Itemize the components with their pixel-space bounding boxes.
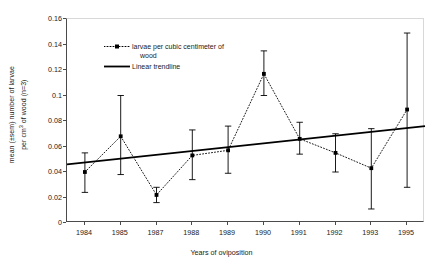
- legend-label-larvae-line2: wood: [140, 51, 224, 60]
- y-tick-label: 0: [34, 218, 62, 227]
- y-tick-label: 0.02: [34, 192, 62, 201]
- data-point-marker: [83, 170, 87, 174]
- x-tick-label: 1984: [76, 228, 92, 237]
- y-axis-title-line2-pre: per cm: [20, 128, 27, 150]
- data-point-marker: [334, 151, 338, 155]
- legend-label-trendline-line1: Linear trendline: [132, 63, 180, 70]
- x-tick-mark: [370, 222, 371, 225]
- x-tick-mark: [335, 222, 336, 225]
- data-point-markers: [83, 72, 409, 197]
- y-axis-title: mean (±sem) number of larvae per cm3 of …: [0, 0, 36, 230]
- legend-item-larvae: larvae per cubic centimeter of wood: [104, 42, 294, 60]
- y-axis-title-line2-post: of wood (n=3): [20, 80, 27, 126]
- data-point-marker: [405, 108, 409, 112]
- x-tick-label: 1992: [327, 228, 343, 237]
- x-tick-label: 1985: [112, 228, 128, 237]
- x-tick-label: 1988: [183, 228, 199, 237]
- x-tick-label: 1993: [362, 228, 378, 237]
- x-tick-mark: [299, 222, 300, 225]
- data-point-marker: [298, 137, 302, 141]
- y-tick-label: 0.04: [34, 167, 62, 176]
- x-tick-mark: [156, 222, 157, 225]
- x-tick-label: 1990: [255, 228, 271, 237]
- x-axis-title: Years of oviposition: [0, 248, 443, 257]
- x-tick-label: 1989: [219, 228, 235, 237]
- x-tick-label: 1987: [148, 228, 164, 237]
- y-axis-title-exponent: 3: [18, 126, 24, 129]
- x-tick-label: 1991: [291, 228, 307, 237]
- data-series-dotted-line: [85, 74, 407, 195]
- legend-item-trendline: Linear trendline: [104, 62, 294, 71]
- data-point-marker: [226, 148, 230, 152]
- data-point-marker: [119, 134, 123, 138]
- legend-label-larvae-line1: larvae per cubic centimeter of: [132, 43, 224, 50]
- x-tick-mark: [263, 222, 264, 225]
- x-tick-mark: [191, 222, 192, 225]
- data-point-marker: [190, 154, 194, 158]
- y-tick-label: 0.16: [34, 14, 62, 23]
- x-tick-mark: [84, 222, 85, 225]
- data-point-marker: [369, 166, 373, 170]
- y-tick-label: 0.08: [34, 116, 62, 125]
- y-tick-label: 0.06: [34, 141, 62, 150]
- solid-line-key-icon: [104, 62, 130, 71]
- dotted-series-path: [85, 74, 407, 195]
- x-tick-mark: [227, 222, 228, 225]
- chart-figure: mean (±sem) number of larvae per cm3 of …: [0, 0, 443, 269]
- y-tick-label: 0.14: [34, 39, 62, 48]
- legend-label-larvae: larvae per cubic centimeter of wood: [132, 42, 224, 60]
- data-point-marker: [155, 193, 159, 197]
- x-tick-label: 1995: [398, 228, 414, 237]
- legend-label-trendline: Linear trendline: [132, 62, 180, 71]
- x-tick-mark: [406, 222, 407, 225]
- dotted-marker-key-icon: [104, 42, 130, 51]
- y-tick-label: 0.1: [34, 90, 62, 99]
- chart-legend: larvae per cubic centimeter of wood Line…: [104, 42, 294, 73]
- y-axis-title-line1: mean (±sem) number of larvae: [8, 66, 15, 163]
- y-tick-mark: [63, 222, 66, 223]
- x-tick-mark: [120, 222, 121, 225]
- y-tick-label: 0.12: [34, 65, 62, 74]
